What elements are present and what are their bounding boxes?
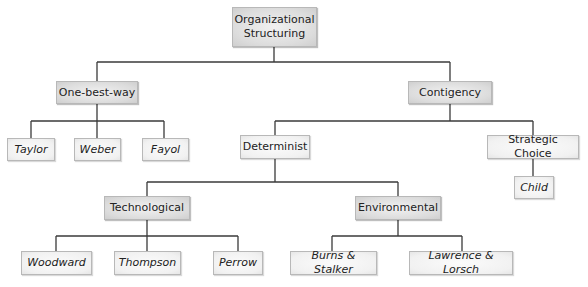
- node-strategic-choice: Strategic Choice: [487, 135, 579, 159]
- node-label: Perrow: [219, 256, 257, 270]
- node-label: Contigency: [419, 86, 481, 100]
- node-contigency: Contigency: [408, 81, 492, 104]
- node-label: Technological: [110, 201, 184, 215]
- node-label: Weber: [80, 143, 116, 157]
- node-label: Child: [520, 181, 548, 195]
- node-label: Taylor: [14, 143, 47, 157]
- node-woodward: Woodward: [21, 251, 92, 275]
- node-label-line2: Structuring: [244, 27, 306, 41]
- node-child: Child: [514, 176, 554, 199]
- node-label: Fayol: [151, 143, 180, 157]
- node-label: One-best-way: [59, 86, 135, 100]
- node-label: Thompson: [119, 256, 177, 270]
- node-label: Strategic Choice: [488, 133, 578, 161]
- node-fayol: Fayol: [142, 138, 189, 161]
- node-label: Lawrence & Lorsch: [410, 249, 512, 277]
- node-technological: Technological: [104, 196, 190, 220]
- node-burns-stalker: Burns & Stalker: [290, 251, 377, 275]
- node-label-line1: Organizational: [234, 13, 314, 27]
- node-label: Environmental: [358, 201, 438, 215]
- node-taylor: Taylor: [7, 138, 55, 161]
- node-label: Burns & Stalker: [291, 249, 376, 277]
- node-organizational-structuring: Organizational Structuring: [232, 7, 317, 47]
- node-determinist: Determinist: [240, 135, 310, 159]
- node-label: Woodward: [27, 256, 86, 270]
- node-lawrence-lorsch: Lawrence & Lorsch: [409, 251, 513, 275]
- node-environmental: Environmental: [355, 196, 441, 220]
- node-label: Determinist: [243, 140, 308, 154]
- node-thompson: Thompson: [114, 251, 181, 275]
- node-one-best-way: One-best-way: [56, 81, 138, 104]
- node-weber: Weber: [74, 138, 121, 161]
- node-perrow: Perrow: [213, 251, 263, 275]
